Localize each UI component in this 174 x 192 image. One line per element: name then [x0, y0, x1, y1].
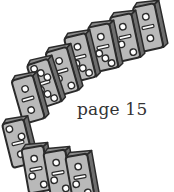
- domino-pip: [74, 43, 82, 51]
- domino-pip: [40, 181, 47, 188]
- domino-pip: [108, 59, 116, 67]
- domino-pip: [6, 125, 14, 133]
- domino-pip: [18, 133, 26, 141]
- domino-pip: [119, 23, 127, 31]
- domino-pip: [28, 173, 35, 180]
- illustration-panel: page 15: [0, 0, 174, 192]
- domino-pip: [62, 185, 69, 192]
- domino-pip: [74, 163, 81, 170]
- domino-pip: [85, 69, 93, 77]
- domino-pip: [52, 159, 59, 166]
- domino-pip: [142, 13, 150, 21]
- domino-pip: [72, 181, 79, 188]
- falling-dominoes-illustration: [0, 0, 174, 192]
- domino-pip: [102, 54, 110, 62]
- domino-pip: [30, 155, 37, 162]
- domino-pip: [97, 33, 105, 41]
- domino-pip: [79, 64, 87, 72]
- domino-tile: [65, 149, 100, 192]
- domino-pip: [147, 34, 155, 42]
- domino-pip: [50, 177, 57, 184]
- domino-pip: [130, 48, 138, 56]
- page-number-caption: page 15: [77, 99, 147, 119]
